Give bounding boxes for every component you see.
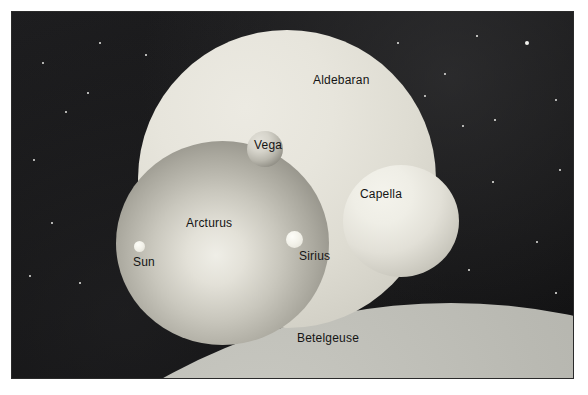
star-sphere-capella — [343, 165, 459, 277]
background-star — [536, 241, 538, 243]
background-star — [51, 222, 53, 224]
background-star — [462, 125, 464, 127]
background-star — [424, 95, 426, 97]
star-label-capella: Capella — [360, 188, 402, 201]
background-star — [555, 99, 557, 101]
background-star — [87, 92, 89, 94]
star-label-sirius: Sirius — [299, 250, 330, 263]
star-label-sun: Sun — [133, 256, 155, 269]
star-label-vega: Vega — [254, 139, 282, 152]
background-star — [145, 54, 147, 56]
star-sphere-sun — [134, 241, 145, 252]
night-sky-plate: Aldebaran Vega Capella Arcturus Sirius S… — [11, 11, 574, 379]
star-sphere-sirius — [286, 231, 303, 248]
background-star — [559, 169, 561, 171]
background-star — [99, 42, 101, 44]
background-star — [468, 269, 470, 271]
star-label-arcturus: Arcturus — [186, 217, 232, 230]
background-star — [79, 282, 81, 284]
star-label-aldebaran: Aldebaran — [313, 74, 370, 87]
background-star — [65, 111, 67, 113]
background-star — [33, 159, 35, 161]
background-star — [42, 62, 44, 64]
star-label-betelgeuse: Betelgeuse — [297, 332, 359, 345]
background-star — [29, 275, 31, 277]
star-size-comparison-figure: Aldebaran Vega Capella Arcturus Sirius S… — [0, 0, 588, 395]
background-star — [444, 73, 446, 75]
background-star — [397, 42, 399, 44]
